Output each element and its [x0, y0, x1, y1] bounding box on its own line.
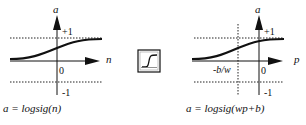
minus-one-label: -1	[264, 87, 272, 98]
y-axis-label: a	[255, 3, 261, 15]
y-axis-arrow-icon	[53, 15, 61, 30]
minus-one-label: -1	[62, 87, 70, 98]
offset-label: -b/w	[213, 64, 231, 75]
y-axis-arrow-icon	[255, 15, 263, 30]
left-formula: a = logsig(n)	[3, 102, 61, 115]
x-axis-label: p	[293, 53, 300, 65]
zero-label: 0	[261, 65, 266, 76]
right-plot: a +1 p -b/w 0 -1 a = logsig(wp+b)	[186, 3, 300, 115]
x-axis-label: n	[106, 53, 112, 65]
plus-one-label: +1	[264, 26, 275, 37]
x-axis-arrow-icon	[268, 57, 283, 65]
x-axis-arrow-icon	[85, 57, 100, 65]
logsig-curve	[10, 39, 102, 59]
logsig-icon	[138, 50, 160, 72]
right-formula: a = logsig(wp+b)	[186, 102, 265, 115]
zero-label: 0	[59, 65, 64, 76]
plus-one-label: +1	[62, 26, 73, 37]
y-axis-label: a	[53, 3, 59, 15]
left-plot: a +1 n 0 -1 a = logsig(n)	[3, 3, 112, 115]
